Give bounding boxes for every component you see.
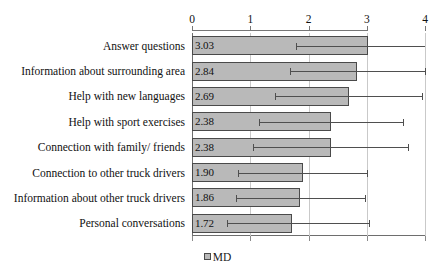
bar-value-label-6: 1.86 [195, 191, 214, 204]
category-label-1: Information about surrounding area [21, 64, 185, 78]
x-axis-top-tick [192, 26, 193, 31]
plot-area: 3.032.842.692.382.381.901.861.72 [192, 33, 425, 236]
chart-legend: MD [0, 249, 435, 264]
bar-value-label-3: 2.38 [195, 115, 214, 128]
error-bar-line-7 [227, 223, 369, 224]
error-bar-cap-low-5 [238, 170, 239, 177]
error-bar-cap-low-2 [275, 93, 276, 100]
x-axis-top-tick [250, 26, 251, 31]
x-axis-tick-labels: 01234 [0, 12, 435, 28]
legend-label-md: MD [213, 250, 232, 264]
x-axis-bottom-tick [367, 236, 368, 241]
x-axis-top-tick [309, 26, 310, 31]
error-bar-line-3 [259, 122, 403, 123]
error-bar-cap-high-7 [369, 220, 370, 227]
category-label-3: Help with sport exercises [68, 115, 185, 129]
x-axis-bottom-tick [425, 236, 426, 241]
category-label-7: Personal conversations [79, 216, 185, 230]
error-bar-cap-high-5 [367, 170, 368, 177]
x-axis-tick-label-3: 3 [355, 12, 379, 26]
category-axis-labels: Answer questionsInformation about surrou… [0, 33, 189, 236]
bar-value-label-4: 2.38 [195, 141, 214, 154]
category-label-6: Information about other truck drivers [14, 191, 185, 205]
error-bar-cap-high-2 [422, 93, 423, 100]
category-label-5: Connection to other truck drivers [32, 166, 185, 180]
category-label-2: Help with new languages [68, 89, 185, 103]
error-bar-line-1 [290, 71, 425, 72]
error-bar-cap-low-7 [227, 220, 228, 227]
bar-row: 2.38 [192, 109, 425, 134]
error-bar-line-2 [275, 96, 422, 97]
bar-row: 2.38 [192, 135, 425, 160]
error-bar-cap-low-0 [296, 43, 297, 50]
bar-row: 1.90 [192, 160, 425, 185]
bar-value-label-5: 1.90 [195, 166, 214, 179]
x-axis-tick-label-1: 1 [238, 12, 262, 26]
x-axis-bottom-tick [250, 236, 251, 241]
x-axis-bottom-tick [309, 236, 310, 241]
error-bar-line-6 [236, 198, 365, 199]
bar-row: 1.72 [192, 211, 425, 236]
bar-row: 1.86 [192, 185, 425, 210]
bar-row: 2.69 [192, 84, 425, 109]
category-label-0: Answer questions [103, 39, 185, 53]
x-axis-top-tick [367, 26, 368, 31]
gridline-4 [425, 33, 426, 236]
x-axis-tick-label-2: 2 [297, 12, 321, 26]
error-bar-cap-high-6 [365, 195, 366, 202]
x-axis-top-tick [425, 26, 426, 31]
legend-swatch-md-icon [204, 253, 211, 260]
x-axis-tick-label-4: 4 [413, 12, 435, 26]
bar-value-label-7: 1.72 [195, 217, 214, 230]
error-bar-line-4 [253, 147, 408, 148]
error-bar-cap-high-3 [403, 119, 404, 126]
error-bar-cap-low-6 [236, 195, 237, 202]
error-bar-line-5 [238, 173, 367, 174]
error-bar-cap-low-3 [259, 119, 260, 126]
error-bar-cap-low-1 [290, 68, 291, 75]
x-axis-top-line [192, 30, 367, 31]
x-axis-bottom-tick [192, 236, 193, 241]
error-bar-cap-high-4 [408, 144, 409, 151]
x-axis-tick-label-0: 0 [180, 12, 204, 26]
bar-value-label-1: 2.84 [195, 65, 214, 78]
bar-row: 2.84 [192, 58, 425, 83]
bar-value-label-0: 3.03 [195, 39, 214, 52]
category-label-4: Connection with family/ friends [38, 140, 185, 154]
bar-row: 3.03 [192, 33, 425, 58]
error-bar-cap-low-4 [253, 144, 254, 151]
bar-chart: 01234 3.032.842.692.382.381.901.861.72 A… [0, 0, 435, 273]
error-bar-line-0 [296, 46, 425, 47]
legend-entry-md: MD [204, 249, 232, 264]
error-bar-cap-high-1 [425, 68, 426, 75]
bar-value-label-2: 2.69 [195, 90, 214, 103]
